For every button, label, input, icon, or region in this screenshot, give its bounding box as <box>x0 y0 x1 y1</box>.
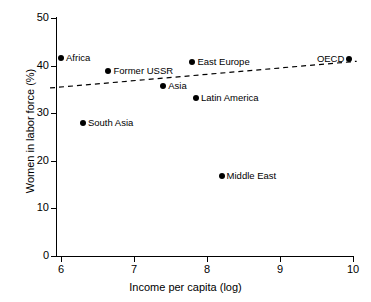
x-axis-title: Income per capita (log) <box>0 281 371 293</box>
data-point-marker[interactable] <box>105 68 111 74</box>
data-point-label: Former USSR <box>113 66 173 76</box>
data-point-label: Asia <box>168 81 186 91</box>
data-point-label: East Europe <box>197 57 249 67</box>
y-axis-title: Women in labor force (%) <box>24 16 36 246</box>
data-point-marker[interactable] <box>189 59 195 65</box>
data-point-label: OECD <box>317 54 344 64</box>
data-point-label: Middle East <box>227 171 277 181</box>
data-point-marker[interactable] <box>346 56 352 62</box>
data-point-marker[interactable] <box>219 173 225 179</box>
data-point-marker[interactable] <box>80 120 86 126</box>
plot-area: AfricaFormer USSRSouth AsiaAsiaEast Euro… <box>0 0 371 302</box>
data-point-label: Africa <box>66 53 90 63</box>
scatter-chart: 01020304050 678910 AfricaFormer USSRSout… <box>0 0 371 302</box>
data-point-marker[interactable] <box>160 83 166 89</box>
data-point-marker[interactable] <box>193 95 199 101</box>
data-point-label: Latin America <box>201 93 259 103</box>
data-point-label: South Asia <box>88 118 133 128</box>
data-point-marker[interactable] <box>58 55 64 61</box>
